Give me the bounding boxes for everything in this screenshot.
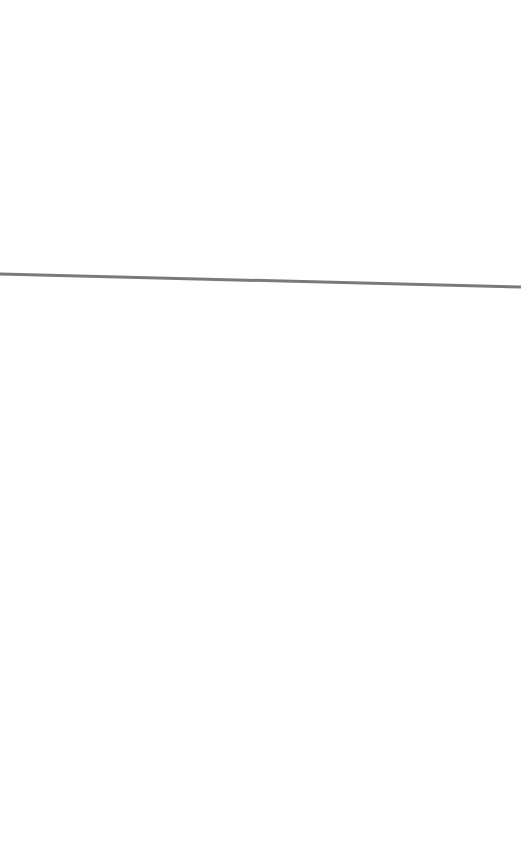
blank-page [0,0,521,861]
horizontal-divider-line [0,0,521,861]
